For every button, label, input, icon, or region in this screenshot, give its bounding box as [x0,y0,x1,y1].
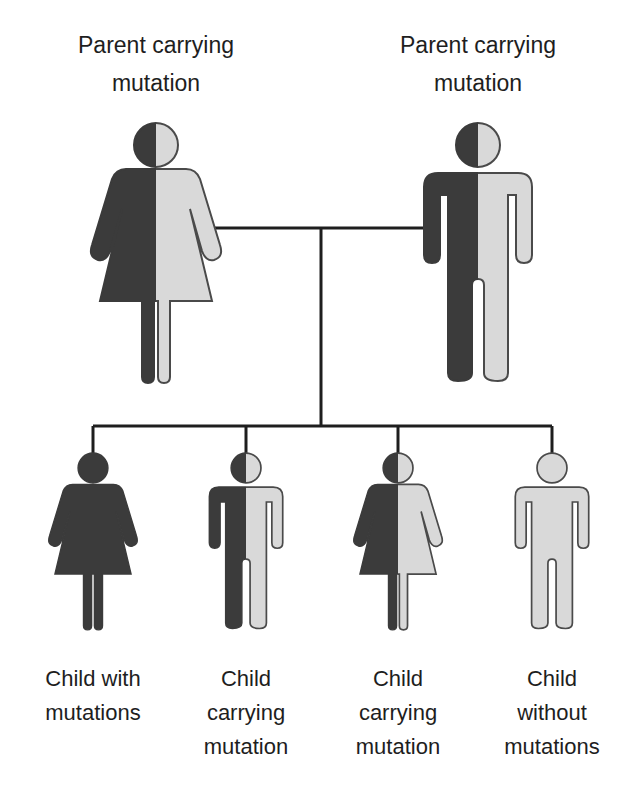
child-3-label-line-3: mutation [323,730,473,764]
child-3-label: Child carrying mutation [323,662,473,764]
child-2-carrier-male-icon [209,453,282,628]
child-1-label-line-1: Child with [18,662,168,696]
child-2-label-line-2: carrying [171,696,321,730]
child-4-label-line-2: without [477,696,627,730]
mother-label: Parent carrying mutation [36,26,276,102]
child-3-label-line-1: Child [323,662,473,696]
father-label: Parent carrying mutation [358,26,598,102]
child-2-label-line-3: mutation [171,730,321,764]
mother-label-line-1: Parent carrying [36,26,276,64]
child-1-label-line-2: mutations [18,696,168,730]
child-1-label: Child with mutations [18,662,168,730]
child-4-label: Child without mutations [477,662,627,764]
father-label-line-1: Parent carrying [358,26,598,64]
child-4-unaffected-male-icon [515,453,588,628]
mother-carrier-icon [91,123,221,383]
child-2-label-line-1: Child [171,662,321,696]
mother-label-line-2: mutation [36,64,276,102]
father-carrier-icon [424,123,532,381]
child-2-label: Child carrying mutation [171,662,321,764]
child-3-label-line-2: carrying [323,696,473,730]
child-4-label-line-3: mutations [477,730,627,764]
child-4-label-line-1: Child [477,662,627,696]
father-label-line-2: mutation [358,64,598,102]
child-1-affected-female-icon [49,453,138,630]
child-3-carrier-female-icon [354,453,443,630]
